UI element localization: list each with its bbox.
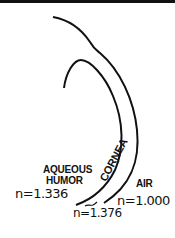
air-index: n=1.000 — [117, 194, 170, 207]
air-label: AIR — [136, 179, 153, 189]
cornea-index: n=1.376 — [73, 207, 122, 219]
aqueous-humor-label-line2: HUMOR — [46, 176, 83, 186]
aqueous-humor-index: n=1.336 — [15, 187, 68, 200]
aqueous-humor-label-line1: AQUEOUS — [43, 165, 92, 175]
